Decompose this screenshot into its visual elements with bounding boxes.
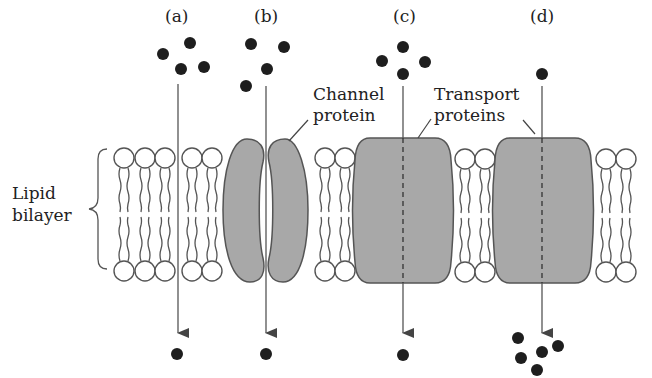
membrane-transport-diagram: (a) (b) (c) (d) Lipid bilayer: [0, 0, 652, 378]
channel-label-line1: Channel: [313, 84, 385, 104]
transport-protein-d: [493, 138, 594, 283]
molecules-above-d: [536, 68, 548, 80]
molecules-above-c: [376, 41, 431, 80]
molecules-below-b: [260, 348, 272, 360]
channel-label-line2: protein: [313, 105, 376, 125]
molecules-above-b: [240, 38, 290, 92]
transport-label-line1: Transport: [434, 84, 520, 104]
transport-leader-c: [418, 119, 431, 138]
lipid-label-line2: bilayer: [12, 205, 73, 225]
panel-label-b: (b): [254, 6, 278, 26]
lipid-label-line1: Lipid: [12, 183, 56, 203]
molecules-below-a: [171, 348, 183, 360]
molecules-below-c: [397, 349, 409, 361]
panel-label-d: (d): [530, 6, 554, 26]
panel-label-c: (c): [393, 6, 416, 26]
molecules-above-a: [157, 37, 210, 75]
channel-leader-line: [289, 120, 308, 141]
molecules-below-d: [512, 332, 564, 376]
brace-icon: [89, 149, 107, 269]
transport-label-line2: proteins: [434, 105, 505, 125]
transport-leader-d: [523, 120, 535, 134]
panel-label-a: (a): [165, 6, 188, 26]
